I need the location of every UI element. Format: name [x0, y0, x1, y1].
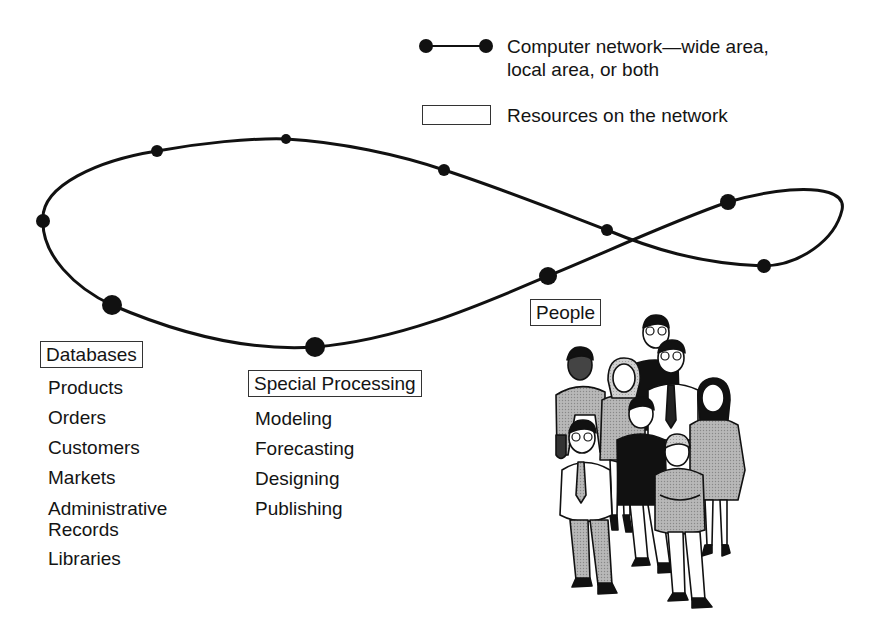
group-of-people-illustration	[540, 310, 770, 620]
line-with-end-nodes-icon	[419, 39, 493, 53]
database-item-line: Records	[48, 519, 167, 540]
database-item: Markets	[48, 463, 167, 493]
databases-label: Databases	[40, 341, 143, 368]
database-item: Products	[48, 373, 167, 403]
database-item: Administrative Records	[48, 493, 167, 544]
processing-item: Forecasting	[255, 434, 354, 464]
network-node	[305, 337, 325, 357]
processing-item: Publishing	[255, 494, 354, 524]
processing-item: Designing	[255, 464, 354, 494]
network-node	[438, 164, 450, 176]
network-node	[539, 267, 557, 285]
database-item: Customers	[48, 433, 167, 463]
network-node	[151, 145, 163, 157]
special-processing-label: Special Processing	[248, 370, 422, 397]
databases-list: Products Orders Customers Markets Admini…	[48, 373, 167, 574]
legend-network-line2: local area, or both	[507, 58, 769, 81]
database-item: Libraries	[48, 544, 167, 574]
network-node	[601, 224, 613, 236]
network-node	[757, 259, 771, 273]
network-node	[102, 295, 122, 315]
network-node	[36, 214, 50, 228]
network-node	[720, 194, 736, 210]
database-item: Orders	[48, 403, 167, 433]
legend-network-label: Computer network—wide area, local area, …	[507, 35, 769, 81]
legend-network-line1: Computer network—wide area,	[507, 35, 769, 58]
special-processing-list: Modeling Forecasting Designing Publishin…	[255, 404, 354, 524]
empty-rectangle-icon	[422, 105, 491, 125]
processing-item: Modeling	[255, 404, 354, 434]
network-node	[281, 134, 291, 144]
database-item-line: Administrative	[48, 498, 167, 519]
legend-resources-label: Resources on the network	[507, 104, 728, 127]
